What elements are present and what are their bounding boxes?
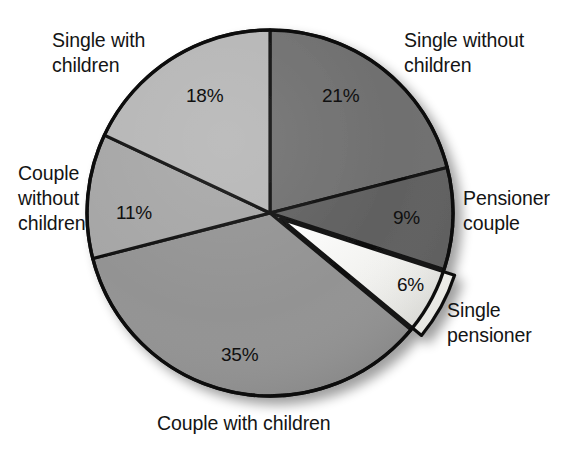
slice-label-single-pensioner: Single pensioner bbox=[447, 298, 532, 348]
slice-value-single-without-children: 21% bbox=[322, 86, 359, 106]
slice-value-couple-without-children: 11% bbox=[116, 203, 152, 223]
slice-label-couple-with-children: Couple with children bbox=[157, 411, 331, 436]
slice-label-pensioner-couple: Pensioner couple bbox=[463, 186, 550, 236]
slice-value-pensioner-couple: 9% bbox=[393, 208, 420, 228]
slice-label-couple-without-children: Couple without children bbox=[18, 161, 86, 236]
slice-value-couple-with-children: 35% bbox=[221, 345, 258, 365]
slice-label-single-with-children: Single with children bbox=[52, 28, 145, 78]
slice-label-single-without-children: Single without children bbox=[404, 28, 524, 78]
slice-value-single-pensioner: 6% bbox=[397, 275, 424, 295]
pie-chart-figure: Single with children Single without chil… bbox=[0, 0, 563, 457]
slice-value-single-with-children: 18% bbox=[186, 86, 223, 106]
